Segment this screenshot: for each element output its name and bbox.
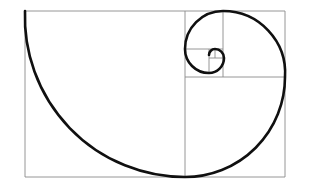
- fibonacci-spiral-figure: [0, 0, 311, 190]
- figure-background: [0, 0, 311, 190]
- spiral-svg-canvas: [0, 0, 311, 190]
